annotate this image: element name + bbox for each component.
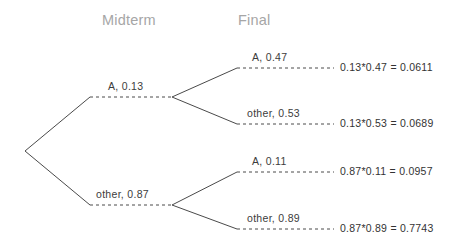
edge-label-final-a-lower: A, 0.11 xyxy=(252,155,287,167)
edge-root-to-midterm-a xyxy=(25,97,90,151)
edge-label-midterm-other: other, 0.87 xyxy=(96,188,149,200)
edge-midterm-a-to-final-a xyxy=(172,68,237,97)
edge-root-to-midterm-other xyxy=(25,151,90,205)
column-header-final: Final xyxy=(238,12,270,28)
product-label-a-a: 0.13*0.47 = 0.0611 xyxy=(340,61,433,73)
edge-label-final-other-lower: other, 0.89 xyxy=(247,212,300,224)
edge-midterm-other-to-final-other xyxy=(172,205,237,229)
column-header-midterm: Midterm xyxy=(102,12,156,28)
edge-label-midterm-a: A, 0.13 xyxy=(108,80,143,92)
product-label-other-a: 0.87*0.11 = 0.0957 xyxy=(340,165,433,177)
edge-midterm-a-to-final-other xyxy=(172,97,237,124)
product-label-other-other: 0.87*0.89 = 0.7743 xyxy=(340,222,434,234)
edge-midterm-other-to-final-a xyxy=(172,172,237,205)
product-label-a-other: 0.13*0.53 = 0.0689 xyxy=(340,117,434,129)
edge-label-final-a-upper: A, 0.47 xyxy=(252,51,287,63)
probability-tree-diagram: Midterm Final A, 0.13 other, 0.87 A, 0.4… xyxy=(0,0,467,246)
edge-label-final-other-upper: other, 0.53 xyxy=(247,107,300,119)
